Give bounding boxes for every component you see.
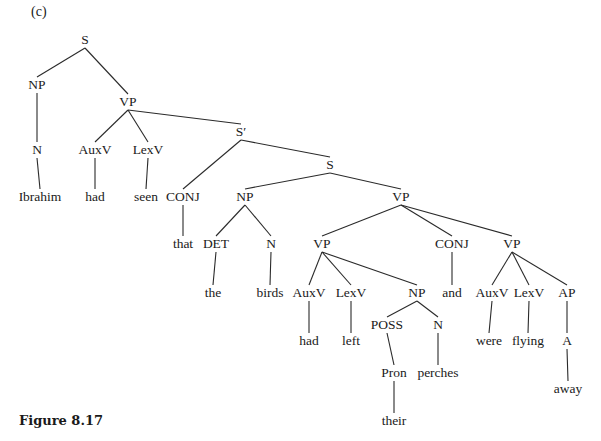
tree-edge [489,301,492,333]
tree-node-vp3: VP [313,237,330,251]
tree-edge [95,110,128,142]
tree-leaf-word: that [173,237,193,251]
tree-node-vp1: VP [119,95,136,109]
tree-node-conj2: CONJ [435,237,469,251]
tree-node-sbar: S′ [236,125,246,139]
tree-node-np2: NP [236,190,253,204]
tree-node-poss: POSS [371,318,403,332]
tree-edge [401,205,452,236]
tree-edge [128,110,148,142]
tree-node-vp2: VP [392,190,409,204]
tree-edge [492,252,512,285]
tree-edges [0,0,601,441]
tree-leaf-word: were [476,334,502,348]
tree-leaf-word: seen [134,190,158,204]
tree-edge [85,48,128,94]
tree-edge [387,333,394,365]
tree-edge [528,301,529,333]
syntax-tree-figure: (c) SNPVPNAuxVLexVIbrahimhadseenS′CONJSN… [0,0,601,441]
tree-node-conj1: CONJ [166,190,200,204]
tree-edge [37,48,85,77]
tree-edge [567,349,568,381]
tree-node-n3: N [433,318,443,332]
tree-edge [128,110,241,124]
tree-edge [37,158,40,189]
tree-node-lexv3: LexV [514,286,545,300]
tree-node-s2: S [326,158,334,172]
tree-edge [270,252,271,285]
tree-leaf-word: their [382,414,407,428]
tree-leaf-word: flying [512,334,544,348]
tree-node-vp4: VP [503,237,520,251]
tree-node-np1: NP [28,78,45,92]
tree-node-a: A [562,334,572,348]
figure-caption: Figure 8.17 [19,413,103,428]
tree-node-lexv2: LexV [336,286,367,300]
tree-edge [245,173,330,189]
tree-node-np3: NP [408,286,425,300]
tree-edge [387,301,417,317]
tree-node-auxv3: AuxV [476,286,509,300]
tree-edge [309,252,322,285]
tree-edge [183,140,241,189]
tree-node-auxv1: AuxV [79,143,112,157]
tree-leaf-word: had [299,334,319,348]
tree-leaf-word: left [342,334,360,348]
tree-node-n2: N [266,237,276,251]
tree-leaf-word: birds [257,286,284,300]
tree-node-pron: Pron [381,366,407,380]
tree-edge [401,205,512,236]
tree-node-ap: AP [558,286,575,300]
tree-node-auxv2: AuxV [293,286,326,300]
tree-edge [146,158,148,189]
tree-edge [322,205,401,236]
tree-leaf-word: had [85,190,105,204]
tree-leaf-word: Ibrahim [19,190,62,204]
tree-edge [216,205,245,236]
tree-leaf-word: and [442,286,462,300]
tree-edge [245,205,271,236]
tree-node-n1: N [32,143,42,157]
tree-node-det: DET [203,237,229,251]
tree-edge [213,252,216,285]
tree-leaf-word: away [554,382,582,396]
tree-edge [241,140,330,157]
tree-node-s_root: S [81,33,89,47]
tree-edge [417,301,438,317]
tree-leaf-word: perches [417,366,458,380]
tree-node-lexv1: LexV [133,143,164,157]
tree-leaf-word: the [205,286,222,300]
tree-edge [330,173,401,189]
